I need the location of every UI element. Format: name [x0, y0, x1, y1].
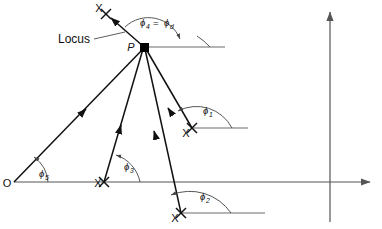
label-phi2-subscript: 2 — [205, 197, 210, 204]
label-x-top: X — [95, 2, 103, 14]
angle-arc-phid — [197, 36, 210, 47]
label-phid-subscript: d — [170, 23, 174, 30]
point-p-node — [140, 43, 149, 52]
label-x-mid: X — [94, 177, 102, 189]
label-x-right: X — [182, 127, 190, 139]
label-locus: Locus — [58, 32, 90, 46]
label-phi4-subscript: 4 — [146, 23, 150, 30]
label-phi4-equals-phid: ϕ 4 = ϕ d — [140, 17, 174, 30]
label-phi3-subscript: 3 — [130, 167, 134, 174]
label-equals-sign: = — [153, 17, 159, 28]
label-phi4-symbol: ϕ — [140, 17, 145, 28]
label-phi1-symbol: ϕ — [203, 105, 208, 116]
locus-leader-line — [94, 32, 125, 39]
label-phid-symbol: ϕ — [164, 17, 169, 28]
label-origin: O — [3, 177, 12, 189]
ray-from-x-low — [145, 49, 181, 213]
label-phi5: ϕ 5 — [39, 168, 49, 181]
label-phi1-subscript: 1 — [209, 111, 213, 118]
ray-x-mid-arrow — [119, 125, 121, 132]
label-phi3-symbol: ϕ — [124, 161, 129, 172]
label-phi2: ϕ 2 — [200, 191, 210, 204]
label-phi3: ϕ 3 — [124, 161, 134, 174]
label-point-p: P — [127, 41, 135, 53]
figure-canvas: X X X X O P Locus ϕ 4 = ϕ d ϕ 1 ϕ 2 ϕ 3 — [0, 0, 382, 229]
label-phi5-symbol: ϕ — [39, 168, 44, 179]
locus-diagram: X X X X O P Locus ϕ 4 = ϕ d ϕ 1 ϕ 2 ϕ 3 — [0, 0, 382, 229]
ray-from-x-right — [146, 49, 192, 128]
ray-x-low-arrow — [154, 131, 156, 138]
label-phi2-symbol: ϕ — [200, 191, 205, 202]
label-phi5-subscript: 5 — [45, 174, 49, 181]
ray-x-right-arrow — [168, 108, 172, 114]
label-x-low: X — [171, 212, 179, 224]
label-phi1: ϕ 1 — [203, 105, 213, 118]
